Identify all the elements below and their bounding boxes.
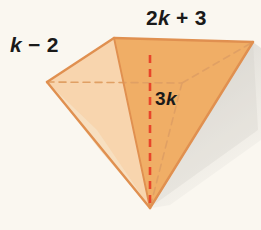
- label-height: 3k: [155, 88, 177, 110]
- label-height-text: 3k: [155, 88, 177, 109]
- label-left-edge-text: k − 2: [10, 33, 59, 56]
- label-top-edge: 2k + 3: [146, 6, 207, 30]
- pyramid-figure: 2k + 3 k − 2 3k: [0, 0, 261, 230]
- label-left-edge: k − 2: [10, 33, 59, 57]
- label-top-edge-text: 2k + 3: [146, 6, 207, 29]
